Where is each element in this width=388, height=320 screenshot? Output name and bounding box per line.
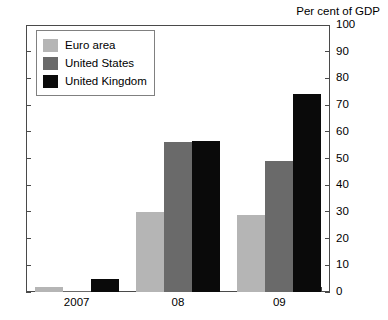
y-axis-label: 0 <box>336 286 342 298</box>
y-axis-label: 80 <box>336 72 349 84</box>
bar <box>136 212 164 292</box>
y-axis-tick-left <box>26 265 31 266</box>
y-axis-tick-left <box>26 105 31 106</box>
y-axis-label: 60 <box>336 126 349 138</box>
y-axis-tick-left <box>26 185 31 186</box>
legend-swatch-icon <box>43 39 58 52</box>
legend-item: United States <box>43 54 147 72</box>
y-axis-label: 30 <box>336 206 349 218</box>
y-axis-tick-left <box>26 78 31 79</box>
x-axis-label: 09 <box>273 296 286 309</box>
y-axis-label: 90 <box>336 46 349 58</box>
y-axis-label: 40 <box>336 179 349 191</box>
legend-swatch-icon <box>43 75 58 88</box>
legend-label: United States <box>65 57 134 70</box>
y-axis-tick-right <box>325 265 330 266</box>
y-axis-tick-right <box>325 25 330 26</box>
y-axis-tick-left <box>26 131 31 132</box>
bar <box>293 94 321 292</box>
y-axis-tick-right <box>325 158 330 159</box>
y-axis-tick-right <box>325 78 330 79</box>
axis-title: Per cent of GDP <box>296 5 380 18</box>
legend-swatch-icon <box>43 57 58 70</box>
y-axis-tick-right <box>325 211 330 212</box>
y-axis-tick-left <box>26 292 31 293</box>
bar <box>192 141 220 292</box>
bar <box>265 161 293 292</box>
y-axis-label: 20 <box>336 233 349 245</box>
y-axis-label: 50 <box>336 153 349 165</box>
bar <box>63 291 91 292</box>
y-axis-tick-left <box>26 211 31 212</box>
y-axis-label: 70 <box>336 99 349 111</box>
y-axis-tick-right <box>325 185 330 186</box>
bar <box>237 215 265 292</box>
bar <box>35 287 63 292</box>
legend-item: Euro area <box>43 36 147 54</box>
y-axis-tick-right <box>325 51 330 52</box>
y-axis-tick-left <box>26 51 31 52</box>
bar-chart: Per cent of GDP Euro areaUnited StatesUn… <box>0 0 388 320</box>
legend-label: United Kingdom <box>65 75 147 88</box>
y-axis-tick-right <box>325 238 330 239</box>
legend-item: United Kingdom <box>43 72 147 90</box>
y-axis-label: 10 <box>336 259 349 271</box>
y-axis-label: 100 <box>336 19 355 31</box>
y-axis-tick-left <box>26 158 31 159</box>
y-axis-tick-left <box>26 25 31 26</box>
x-axis-label: 08 <box>172 296 185 309</box>
legend-label: Euro area <box>65 39 116 52</box>
x-axis-label: 2007 <box>64 296 90 309</box>
bar <box>164 142 192 292</box>
y-axis-tick-right <box>325 131 330 132</box>
bar <box>91 279 119 292</box>
chart-legend: Euro areaUnited StatesUnited Kingdom <box>36 30 155 96</box>
y-axis-tick-right <box>325 292 330 293</box>
y-axis-tick-left <box>26 238 31 239</box>
y-axis-tick-right <box>325 105 330 106</box>
